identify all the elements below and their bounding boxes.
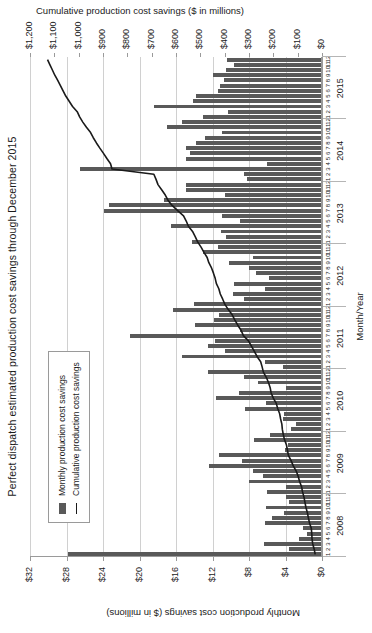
legend-item-cumulative: Cumulative production cost savings bbox=[69, 362, 83, 514]
month-tick-label: 2 bbox=[324, 297, 332, 302]
left-tick-mark bbox=[322, 557, 323, 561]
month-tick-label: 3 bbox=[324, 416, 332, 421]
year-tick-label: 2014 bbox=[335, 120, 345, 183]
month-tick-label: 10 bbox=[324, 255, 332, 260]
month-tick-label: 9 bbox=[324, 73, 332, 78]
month-tick-label: 11 bbox=[324, 250, 332, 255]
month-tick-label: 3 bbox=[324, 229, 332, 234]
month-tick-label: 9 bbox=[324, 448, 332, 453]
month-tick-label: 9 bbox=[324, 198, 332, 203]
left-tick-label: $20 bbox=[134, 567, 144, 633]
month-tick-label: 5 bbox=[324, 468, 332, 473]
month-tick-label: 4 bbox=[324, 161, 332, 166]
month-tick-label: 6 bbox=[324, 151, 332, 156]
left-tick-label: $24 bbox=[97, 567, 107, 633]
month-tick-label: 3 bbox=[324, 166, 332, 171]
year-separator bbox=[322, 306, 346, 307]
month-tick-label: 6 bbox=[324, 526, 332, 531]
month-tick-label: 8 bbox=[324, 390, 332, 395]
month-tick-label: 6 bbox=[324, 338, 332, 343]
month-tick-label: 3 bbox=[324, 104, 332, 109]
month-tick-label: 5 bbox=[324, 343, 332, 348]
month-tick-label: 5 bbox=[324, 218, 332, 223]
left-tick-mark bbox=[286, 557, 287, 561]
month-tick-label: 8 bbox=[324, 140, 332, 145]
month-tick-label: 11 bbox=[324, 437, 332, 442]
right-tick-label: $500 bbox=[194, 29, 204, 49]
month-tick-label: 4 bbox=[324, 286, 332, 291]
month-tick-label: 5 bbox=[324, 531, 332, 536]
right-tick-label: $600 bbox=[170, 29, 180, 49]
right-tick-label: $1,200 bbox=[24, 21, 34, 49]
month-tick-label: 5 bbox=[324, 281, 332, 286]
left-tick-label: $8 bbox=[243, 567, 253, 633]
month-tick-label: 2 bbox=[324, 484, 332, 489]
month-tick-label: 7 bbox=[324, 83, 332, 88]
month-tick-label: 7 bbox=[324, 146, 332, 151]
line-swatch-icon bbox=[76, 503, 77, 514]
month-tick-label: 8 bbox=[324, 515, 332, 520]
chart-title: Perfect dispatch estimated production co… bbox=[6, 0, 18, 633]
month-tick-label: 5 bbox=[324, 406, 332, 411]
month-tick-label: 8 bbox=[324, 265, 332, 270]
month-tick-label: 6 bbox=[324, 401, 332, 406]
month-tick-label: 10 bbox=[324, 130, 332, 135]
month-tick-label: 11 bbox=[324, 187, 332, 192]
month-tick-label: 11 bbox=[324, 375, 332, 380]
left-tick-mark bbox=[249, 557, 250, 561]
year-tick-label: 2013 bbox=[335, 182, 345, 245]
month-tick-label: 2 bbox=[324, 109, 332, 114]
right-tick-label: $1,100 bbox=[48, 21, 58, 49]
year-tick-label: 2015 bbox=[335, 57, 345, 120]
month-tick-label: 11 bbox=[324, 312, 332, 317]
month-tick-label: 11 bbox=[324, 125, 332, 130]
year-separator bbox=[322, 56, 346, 57]
month-tick-label: 2 bbox=[324, 359, 332, 364]
month-tick-label: 12 bbox=[324, 120, 332, 125]
month-tick-label: 4 bbox=[324, 349, 332, 354]
year-separator bbox=[322, 431, 346, 432]
month-tick-label: 3 bbox=[324, 479, 332, 484]
month-tick-label: 9 bbox=[324, 260, 332, 265]
month-tick-label: 6 bbox=[324, 88, 332, 93]
year-tick-label: 2011 bbox=[335, 307, 345, 370]
month-tick-label: 2 bbox=[324, 422, 332, 427]
month-tick-label: 9 bbox=[324, 385, 332, 390]
month-tick-label: 12 bbox=[324, 495, 332, 500]
legend-item-monthly: Monthly production cost savings bbox=[55, 362, 69, 514]
year-tick-label: 2009 bbox=[335, 432, 345, 495]
month-tick-label: 12 bbox=[324, 370, 332, 375]
rotated-chart-wrapper: Perfect dispatch estimated production co… bbox=[0, 0, 372, 633]
month-tick-label: 9 bbox=[324, 135, 332, 140]
chart-root: Perfect dispatch estimated production co… bbox=[0, 0, 372, 633]
month-tick-label: 12 bbox=[324, 57, 332, 62]
month-tick-label: 12 bbox=[324, 432, 332, 437]
month-tick-label: 4 bbox=[324, 99, 332, 104]
right-tick-label: $700 bbox=[146, 29, 156, 49]
right-tick-label: $200 bbox=[267, 29, 277, 49]
month-tick-label: 3 bbox=[324, 541, 332, 546]
month-tick-label: 11 bbox=[324, 62, 332, 67]
legend-label-cumulative: Cumulative production cost savings bbox=[71, 362, 81, 496]
left-tick-mark bbox=[30, 557, 31, 561]
left-tick-label: $16 bbox=[170, 567, 180, 633]
right-axis-title: Cumulative production cost savings ($ in… bbox=[36, 5, 244, 16]
right-tick-label: $900 bbox=[97, 29, 107, 49]
left-tick-mark bbox=[213, 557, 214, 561]
left-tick-mark bbox=[140, 557, 141, 561]
month-tick-label: 2 bbox=[324, 547, 332, 552]
month-tick-label: 12 bbox=[324, 307, 332, 312]
month-tick-label: 6 bbox=[324, 463, 332, 468]
month-tick-label: 10 bbox=[324, 67, 332, 72]
right-tick-label: $100 bbox=[292, 29, 302, 49]
month-tick-label: 12 bbox=[324, 182, 332, 187]
year-tick-label: 2010 bbox=[335, 370, 345, 433]
year-separator bbox=[322, 181, 346, 182]
month-tick-label: 6 bbox=[324, 213, 332, 218]
left-tick-label: $0 bbox=[316, 567, 326, 633]
month-tick-label: 12 bbox=[324, 245, 332, 250]
left-tick-mark bbox=[176, 557, 177, 561]
month-tick-label: 2 bbox=[324, 172, 332, 177]
month-tick-label: 10 bbox=[324, 505, 332, 510]
month-tick-label: 10 bbox=[324, 380, 332, 385]
